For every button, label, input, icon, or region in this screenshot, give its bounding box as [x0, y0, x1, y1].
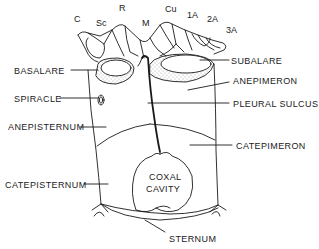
label-coxal-cavity-line2: CAVITY	[146, 184, 180, 194]
label-anepisternum: ANEPISTERNUM	[8, 122, 84, 132]
label-vein-m: M	[142, 18, 150, 28]
label-vein-cu: Cu	[165, 4, 177, 14]
label-vein-2a: 2A	[207, 14, 218, 24]
label-anepimeron: ANEPIMERON	[233, 76, 298, 86]
label-spiracle: SPIRACLE	[14, 94, 62, 104]
wing-base-sclerites	[78, 22, 226, 62]
label-sternum: STERNUM	[169, 234, 216, 244]
subalare-sclerite	[150, 54, 214, 82]
label-coxal-cavity-line1: COXAL	[149, 172, 182, 182]
leader-lines	[60, 60, 232, 232]
label-subalare: SUBALARE	[231, 56, 282, 66]
label-basalare: BASALARE	[14, 66, 65, 76]
label-vein-sc: Sc	[96, 18, 107, 28]
label-vein-c: C	[74, 14, 81, 24]
label-vein-1a: 1A	[187, 10, 198, 20]
basalare-sclerite	[96, 58, 134, 84]
label-pleural-sulcus: PLEURAL SULCUS	[233, 99, 318, 109]
label-catepisternum: CATEPISTERNUM	[5, 180, 87, 190]
pleuron-diagram: C Sc R M Cu 1A 2A 3A BASALARE SPIRACLE A…	[0, 0, 319, 249]
label-vein-r: R	[119, 3, 126, 13]
label-catepimeron: CATEPIMERON	[236, 141, 306, 151]
label-vein-3a: 3A	[226, 25, 237, 35]
